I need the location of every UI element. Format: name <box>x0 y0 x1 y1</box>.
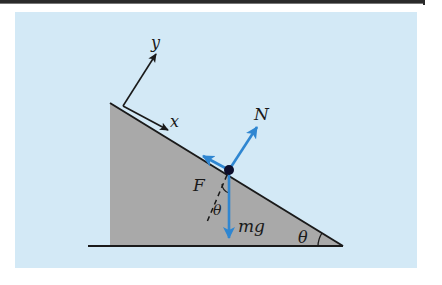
friction-force-label: F <box>192 175 206 195</box>
x-axis-label: x <box>170 112 179 131</box>
inclined-plane-diagram: θ y x θ N F mg <box>0 0 442 285</box>
dot-angle-label: θ <box>213 202 222 218</box>
weight-force-label: mg <box>238 216 265 236</box>
block-point <box>224 165 234 175</box>
normal-force-label: N <box>253 104 270 124</box>
y-axis-arrow <box>123 54 156 106</box>
base-angle-label: θ <box>298 228 308 247</box>
y-axis-label: y <box>150 33 161 52</box>
normal-force-arrow <box>229 127 257 170</box>
